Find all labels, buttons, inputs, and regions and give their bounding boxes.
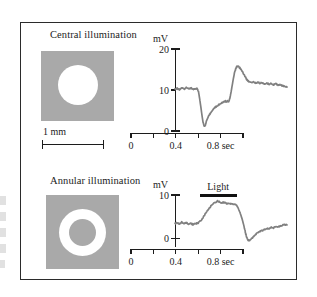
annulus-center-icon <box>69 219 96 246</box>
figure-border: Central illumination 1 mm mV 01020 <box>20 22 297 280</box>
stimulus-icon-annular <box>46 195 119 269</box>
scale-bar-graphic <box>42 140 104 149</box>
x-tick-mark <box>130 133 131 138</box>
page-edge-artifact <box>0 244 6 253</box>
x-axis-line-central <box>131 133 243 134</box>
page-edge-artifact <box>0 212 6 221</box>
stimulus-icon-central <box>41 51 114 121</box>
scale-bar-label: 1 mm <box>42 126 118 138</box>
y-tick-label: 20 <box>159 44 169 55</box>
x-tick-mark <box>220 133 221 138</box>
x-axis-annular: 00.40.8 sec <box>131 249 243 259</box>
x-tick-mark <box>153 133 154 138</box>
x-tick-mark <box>175 249 176 254</box>
x-tick-label: 0.4 <box>170 140 183 151</box>
page-edge-artifact <box>0 196 6 205</box>
x-tick-label: 0 <box>129 256 134 267</box>
trace-line <box>175 66 287 126</box>
x-axis-central: 00.40.8 sec <box>131 133 243 143</box>
x-tick-mark <box>198 133 199 138</box>
scale-bar-cap-left <box>42 140 43 149</box>
x-tick-mark <box>198 249 199 254</box>
y-tick-label: 0 <box>164 233 169 244</box>
trace-annular-illumination <box>175 195 287 247</box>
x-tick-label: 0.8 sec <box>207 140 235 151</box>
stimulus-square <box>46 195 119 269</box>
x-tick-mark <box>175 133 176 138</box>
central-disc-icon <box>58 65 98 105</box>
y-tick-label: 10 <box>159 85 169 96</box>
x-axis-line-annular <box>131 249 243 250</box>
x-tick-label: 0.4 <box>170 256 183 267</box>
scale-bar-line <box>42 144 104 145</box>
scale-bar: 1 mm <box>42 126 118 149</box>
panel-title-annular: Annular illumination <box>50 175 140 186</box>
x-tick-label: 0 <box>129 140 134 151</box>
trace-central-illumination <box>175 49 287 131</box>
x-tick-mark <box>242 133 243 138</box>
x-tick-mark <box>130 249 131 254</box>
chart-annular-illumination: mV 010 Light 00.40.8 sec <box>131 179 296 279</box>
y-tick-label: 10 <box>159 190 169 201</box>
scale-bar-cap-right <box>103 140 104 149</box>
light-stimulus-bar <box>200 194 237 197</box>
plot-area-central: 01020 <box>175 49 287 131</box>
panel-central-illumination: Central illumination 1 mm mV 01020 <box>21 23 298 175</box>
x-tick-mark <box>153 249 154 254</box>
plot-area-annular: 010 Light <box>175 195 287 247</box>
figure-root: Central illumination 1 mm mV 01020 <box>0 0 317 297</box>
y-axis-unit-central: mV <box>153 33 168 44</box>
x-tick-label: 0.8 sec <box>207 256 235 267</box>
light-stimulus-label: Light <box>200 181 237 192</box>
page-edge-artifact <box>0 260 5 268</box>
panel-annular-illumination: Annular illumination mV 010 Light <box>21 169 298 281</box>
page-edge-artifact <box>0 228 6 237</box>
chart-central-illumination: mV 01020 00.40.8 sec <box>131 33 296 168</box>
panel-title-central: Central illumination <box>50 29 137 40</box>
x-tick-mark <box>220 249 221 254</box>
trace-line <box>175 201 287 241</box>
stimulus-square <box>41 51 114 121</box>
y-axis-unit-annular: mV <box>153 179 168 190</box>
light-stimulus-marker: Light <box>200 181 237 197</box>
x-tick-mark <box>242 249 243 254</box>
